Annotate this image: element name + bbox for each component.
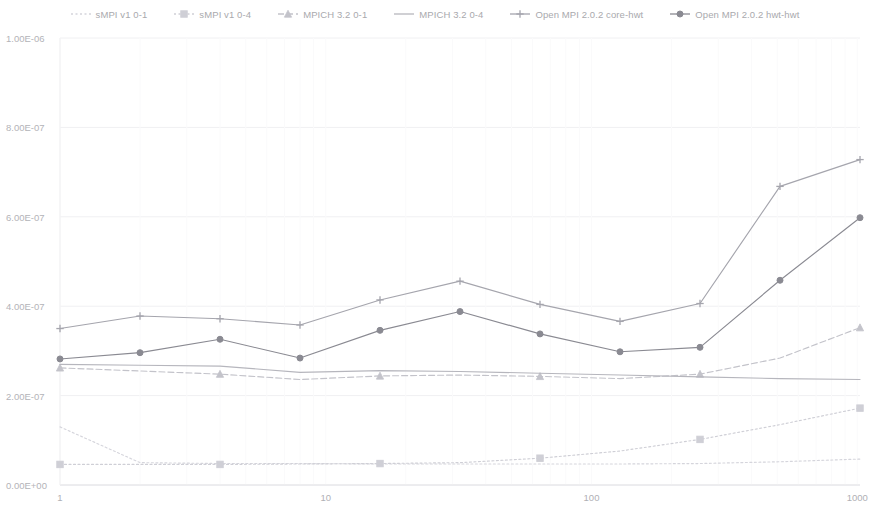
data-point-marker <box>617 349 623 355</box>
data-point-marker <box>457 309 463 315</box>
y-axis-tick-label: 6.00E-07 <box>6 211 45 222</box>
x-axis-tick-label: 10 <box>320 492 331 503</box>
series-open-mpi-2-0-2-hwt-hwt <box>57 215 863 362</box>
series-line <box>60 408 860 464</box>
data-point-marker <box>297 355 303 361</box>
data-point-marker <box>217 461 223 467</box>
x-axis-tick-label: 1 <box>57 492 62 503</box>
y-axis-tick-label: 2.00E-07 <box>6 390 45 401</box>
data-point-marker <box>377 460 383 466</box>
series-line <box>60 160 860 329</box>
data-point-marker <box>377 327 383 333</box>
data-point-marker <box>137 350 143 356</box>
data-point-marker <box>217 336 223 342</box>
x-axis-tick-label: 1000 <box>847 492 868 503</box>
data-point-marker <box>777 277 783 283</box>
y-axis-tick-label: 0.00E+00 <box>6 480 47 491</box>
y-axis-tick-label: 4.00E-07 <box>6 301 45 312</box>
data-point-marker <box>57 461 63 467</box>
data-point-marker <box>697 344 703 350</box>
data-point-marker <box>697 436 703 442</box>
y-axis-tick-label: 1.00E-06 <box>6 33 45 44</box>
plot-area <box>0 0 869 505</box>
y-axis-tick-label: 8.00E-07 <box>6 122 45 133</box>
data-point-marker <box>857 405 863 411</box>
series-line <box>60 218 860 359</box>
chart-container: sMPI v1 0-1sMPI v1 0-4MPICH 3.2 0-1MPICH… <box>0 0 869 505</box>
data-point-marker <box>537 455 543 461</box>
series-smpi-v1-0-4 <box>57 405 863 468</box>
data-point-marker <box>537 331 543 337</box>
x-axis-tick-label: 100 <box>584 492 600 503</box>
data-point-marker <box>57 356 63 362</box>
data-point-marker <box>857 215 863 221</box>
